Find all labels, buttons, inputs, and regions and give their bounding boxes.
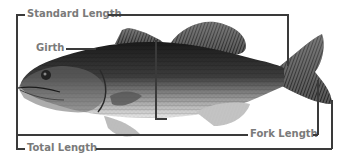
total-length-label: Total Length bbox=[25, 142, 99, 154]
fork-length-label: Fork Length bbox=[248, 128, 320, 140]
girth-measure-foot bbox=[155, 118, 167, 120]
girth-pointer-line bbox=[66, 48, 96, 50]
girth-measure-line bbox=[155, 40, 157, 119]
fork-length-end-line bbox=[317, 80, 319, 135]
standard-length-end-line bbox=[287, 14, 289, 66]
girth-label: Girth bbox=[34, 42, 66, 54]
total-length-end-line bbox=[331, 100, 333, 149]
fork-length-line bbox=[16, 134, 248, 136]
standard-length-line bbox=[108, 14, 288, 16]
total-length-line bbox=[96, 148, 332, 150]
left-reference-line bbox=[16, 14, 18, 149]
fish-measurement-diagram: Standard Length Girth Fork Length Total … bbox=[0, 0, 350, 163]
